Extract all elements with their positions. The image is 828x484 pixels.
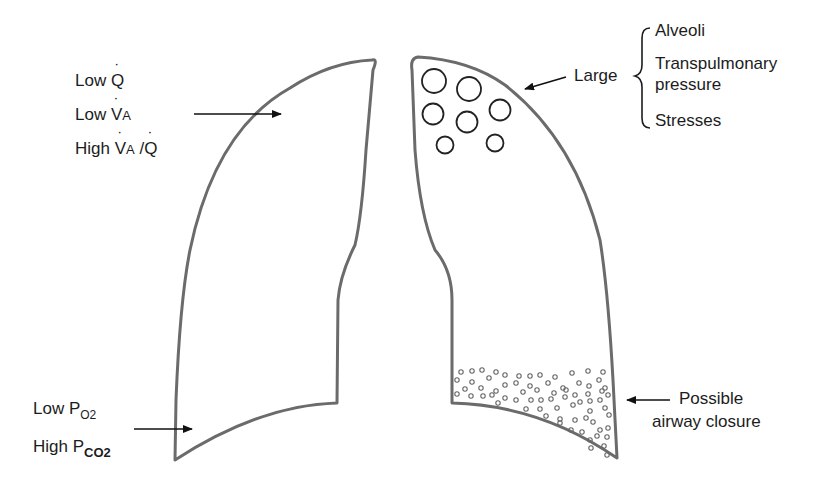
large-alveoli: [422, 69, 511, 154]
q-dot-symbol: Q: [144, 140, 157, 157]
brace-item-pressure: pressure: [655, 76, 721, 93]
label-high-va-q-ratio: High VA /Q: [75, 140, 157, 157]
brace-item-alveoli: Alveoli: [655, 22, 705, 39]
v-dot-symbol: V: [115, 140, 126, 157]
label-high-pco2: High PCO2: [33, 438, 111, 459]
small-alveoli: [455, 368, 611, 457]
arrow-apex-right: [525, 77, 566, 89]
v-dot-symbol: V: [111, 106, 122, 123]
brace-item-transpulmonary: Transpulmonary: [655, 55, 777, 72]
q-dot-symbol: Q: [111, 72, 124, 89]
label-low-perfusion: Low Q: [75, 72, 124, 89]
label-large: Large: [574, 67, 617, 84]
brace-item-stresses: Stresses: [655, 112, 721, 129]
label-airway-closure: airway closure: [652, 413, 761, 430]
label-low-po2: Low PO2: [33, 400, 96, 421]
label-low-ventilation: Low VA: [75, 106, 131, 123]
label-possible: Possible: [679, 390, 743, 407]
curly-brace: [635, 28, 650, 128]
left-lung-outline: [175, 60, 375, 460]
